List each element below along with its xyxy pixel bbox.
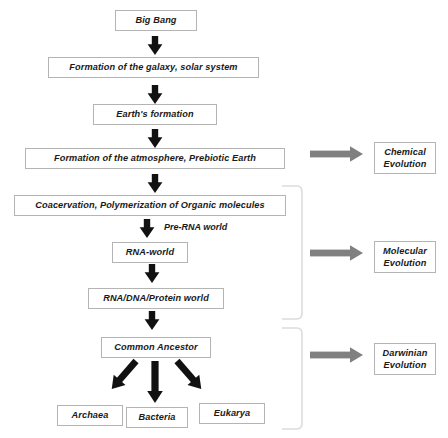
node-common-ancestor[interactable]: Common Ancestor [101,337,211,358]
node-atmosphere-prebiotic-earth[interactable]: Formation of the atmosphere, Prebiotic E… [25,148,285,169]
bracket-darwinian-evolution [282,328,302,429]
node-big-bang[interactable]: Big Bang [115,10,197,31]
common-ancestor-fanout [106,356,207,403]
node-galaxy-formation[interactable]: Formation of the galaxy, solar system [48,57,259,78]
node-rna-world-label: RNA-world [126,247,174,258]
node-rna-dna-protein-world[interactable]: RNA/DNA/Protein world [88,288,224,309]
caption-pre-rna-world: Pre-RNA world [164,222,227,232]
node-coacervation-polymerization[interactable]: Coacervation, Polymerization of Organic … [14,195,286,216]
caption-pre-rna-world-label: Pre-RNA world [164,222,227,232]
node-bacteria[interactable]: Bacteria [126,407,188,428]
node-chemical-evolution-line2: Evolution [384,158,427,170]
arrow-rnadnaprotein-to-commonancestor [145,311,160,330]
arrow-to-eukarya [171,356,207,394]
arrow-darwinian-evolution [310,347,363,363]
node-eukarya[interactable]: Eukarya [199,403,265,424]
node-eukarya-label: Eukarya [214,408,250,419]
node-molecular-evolution-line2: Evolution [384,257,427,269]
arrow-galaxy-to-earth [148,85,163,104]
arrow-to-archaea [106,356,142,394]
node-darwinian-evolution-line2: Evolution [384,359,427,371]
node-coacervation-polymerization-label: Coacervation, Polymerization of Organic … [35,200,265,211]
node-earth-formation[interactable]: Earth's formation [93,104,217,125]
arrow-earth-to-atmosphere [148,129,163,148]
arrow-rnaworld-to-rnadnaprotein [145,264,160,283]
node-atmosphere-prebiotic-earth-label: Formation of the atmosphere, Prebiotic E… [54,153,256,164]
node-earth-formation-label: Earth's formation [116,109,193,120]
node-archaea[interactable]: Archaea [57,405,123,426]
evolution-arrows [310,146,363,363]
node-common-ancestor-label: Common Ancestor [114,342,197,353]
node-chemical-evolution-line1: Chemical [384,146,426,158]
diagram-canvas: Big Bang Formation of the galaxy, solar … [0,0,448,438]
node-molecular-evolution-line1: Molecular [383,245,427,257]
node-darwinian-evolution-line1: Darwinian [383,347,428,359]
node-galaxy-formation-label: Formation of the galaxy, solar system [69,62,237,73]
arrow-to-bacteria [147,361,163,403]
node-darwinian-evolution[interactable]: Darwinian Evolution [374,343,436,375]
node-molecular-evolution[interactable]: Molecular Evolution [374,241,436,273]
chain-arrows [140,36,163,330]
node-bacteria-label: Bacteria [138,412,175,423]
node-chemical-evolution[interactable]: Chemical Evolution [374,142,436,174]
arrow-coacervation-to-rnaworld [140,219,155,238]
node-rna-dna-protein-world-label: RNA/DNA/Protein world [103,293,209,304]
section-brackets [282,186,302,429]
node-archaea-label: Archaea [72,410,109,421]
node-big-bang-label: Big Bang [135,15,176,26]
arrow-bigbang-to-galaxy [148,36,163,55]
node-rna-world[interactable]: RNA-world [112,242,188,263]
arrow-chemical-evolution [310,146,363,162]
arrow-molecular-evolution [310,245,363,261]
arrow-atmosphere-to-coacervation [148,174,163,193]
